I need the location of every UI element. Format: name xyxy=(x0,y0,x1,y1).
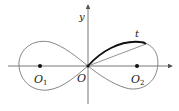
lemniscate-diagram: y t O O1 O2 xyxy=(0,0,179,111)
focus-left-label: O1 xyxy=(34,73,48,87)
y-axis-label: y xyxy=(78,11,85,22)
origin-point xyxy=(87,65,90,68)
focus-right-point xyxy=(135,64,139,68)
origin-label: O xyxy=(77,72,86,85)
focus-right-label: O2 xyxy=(131,73,145,87)
tangent-label: t xyxy=(135,28,140,39)
focus-left-point xyxy=(38,64,42,68)
chord-line xyxy=(88,44,146,66)
